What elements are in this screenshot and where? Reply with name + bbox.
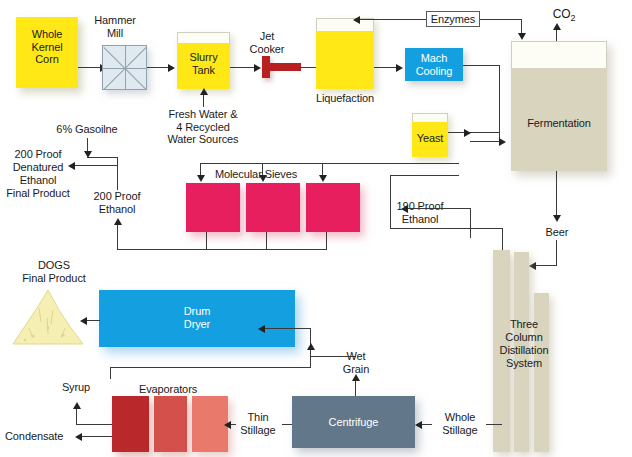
arrow-liq-to-cooling [396,64,403,72]
arrow-ferm-to-co2 [553,23,561,30]
flow-blend-h [87,157,118,158]
label-beer: Beer [533,226,581,239]
arrow-190-feed [401,205,408,213]
flow-yeast-to-manifold [448,132,499,133]
label-evaporators: Evaporators [125,383,211,396]
flow-thin-stillage-b [282,424,292,425]
flow-syrup-left-v [110,367,111,379]
flow-mill-to-slurry [147,67,169,68]
node-molecular-sieve-1[interactable] [186,183,240,232]
label-co2: CO2 [537,8,591,25]
label-mach-cooling: Mach Cooling [405,52,463,77]
flow-190-up [502,228,503,250]
flow-cooling-manifold-h [463,65,500,66]
flow-syrup-from-evap [76,424,112,425]
arrow-condensate [75,433,82,441]
arrow-water-to-slurry [200,88,208,95]
cooker-body [270,63,301,71]
label-centrifuge: Centrifuge [292,416,415,429]
label-syrup: Syrup [52,381,100,394]
label-200-proof-ethanol: 200 Proof Ethanol [86,190,148,215]
node-evaporator-1[interactable] [112,396,149,452]
flow-slurry-to-cooker [230,67,255,68]
arrow-dryer-to-ddgs [80,317,87,325]
flow-enzymes-to-ferm-v [521,19,522,34]
node-evaporator-3[interactable] [192,396,228,452]
arrow-beer-to-column [529,262,536,270]
flow-wetgrain-h [262,328,311,329]
process-flow-diagram: Whole Kernel Corn Hammer Mill Slurry Tan… [0,0,632,457]
arrow-whole-stillage [415,421,422,429]
slurry-tank-cap [177,32,230,43]
flow-190-feed-v [470,208,471,238]
label-condensate: Condensate [5,430,67,443]
arrow-enzymes-to-liq [353,16,360,24]
label-fresh-water: Fresh Water & 4 Recycled Water Sources [153,108,253,146]
label-molecular-sieves: Molecular Sieves [196,168,316,181]
flow-enzymes-to-ferm-h [480,19,522,20]
flow-to-denatured [72,165,118,166]
arrow-syrup-to-dryer [307,343,315,350]
flow-enzymes-to-liq [357,19,426,20]
flow-wetgrain-up [355,378,356,398]
label-denatured-final-product: 200 Proof Denatured Ethanol Final Produc… [5,148,71,200]
flow-gasoline-down [87,138,88,152]
arrow-sieve-feed-1 [197,175,205,182]
label-190-proof-ethanol: 190 Proof Ethanol [385,200,455,225]
arrow-ferm-beer [553,215,561,222]
arrow-syrup-up2 [73,402,81,409]
yeast-cap [412,113,448,122]
arrow-slurry-to-cooker [254,64,261,72]
label-hammer-mill: Hammer Mill [85,14,145,39]
node-distillation-column-3[interactable] [534,293,549,452]
flow-wetgrain-join [310,356,356,357]
clipped-title-strip [0,0,632,6]
flow-beer-down [556,240,557,265]
arrow-mill-to-slurry [168,64,175,72]
flow-blend-v [117,157,118,190]
node-hammer-mill[interactable] [102,45,147,90]
label-whole-stillage: Whole Stillage [434,411,486,436]
label-yeast: Yeast [412,132,448,145]
flow-190-feed-h [405,208,471,209]
label-jet-cooker: Jet Cooker [235,30,299,55]
cooker-head [262,56,270,78]
flow-syrup-up2 [76,407,77,425]
flow-syrup-h [110,367,311,368]
label-ddgs-final-product: DOGS Final Product [8,259,100,284]
flow-beer-to-column [533,265,557,266]
fermentation-cap [511,41,607,68]
label-liquefaction: Liquefaction [306,92,384,105]
node-evaporator-2[interactable] [154,396,187,452]
label-distillation: Three Column Distillation System [488,318,560,370]
flow-cooker-to-liq [300,67,317,68]
label-slurry-tank: Slurry Tank [177,51,230,76]
arrow-sieve-feed-3 [319,175,327,182]
label-whole-kernel-corn: Whole Kernel Corn [16,28,78,66]
arrow-sieve-out-up [114,218,122,225]
flow-syrup-up-v [310,347,311,367]
arrow-sieve-feed-2 [259,175,267,182]
arrow-wetgrain-to-dryer [258,325,265,333]
label-thin-stillage: Thin Stillage [234,411,282,436]
flow-condensate-h [79,436,112,437]
node-fermentation[interactable] [511,41,607,171]
label-drum-dryer: Drum Dryer [99,305,295,330]
node-jet-cooker[interactable] [262,56,304,78]
label-gasoline: 6% Gasoilne [32,123,142,136]
flow-ferm-to-beer [556,171,557,216]
flow-liq-to-cooling [374,67,397,68]
label-fermentation: Fermentation [511,117,607,130]
label-wet-grain: Wet Grain [335,350,377,375]
arrow-yeast-to-manifold [464,129,471,137]
arrow-thin-stillage [224,421,231,429]
node-molecular-sieve-3[interactable] [306,183,360,232]
flow-corn-to-mill [78,67,101,68]
sieve-out-up [117,222,118,249]
sieve-out-header [117,249,327,250]
ddgs-pile-icon [9,288,87,348]
node-liquefaction[interactable] [316,18,374,89]
sieve-out-3 [326,232,327,249]
node-molecular-sieve-2[interactable] [246,183,300,232]
sieve-out-1 [206,232,207,249]
